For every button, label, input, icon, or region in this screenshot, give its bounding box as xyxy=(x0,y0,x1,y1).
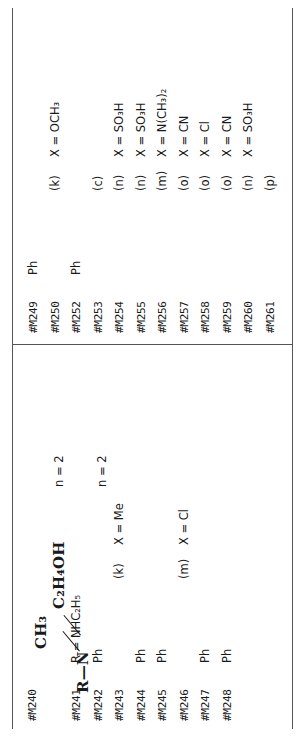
table-row: #M243(k)X = Me xyxy=(112,351,134,721)
entry-isomer: (o) xyxy=(220,157,234,191)
rotated-page-container: R—N CH₃ C₂H₄OH n = 2 n = 2 #M240#M241R =… xyxy=(0,0,303,737)
table-row: #M244Ph xyxy=(134,351,156,721)
entry-id: #M261 xyxy=(264,275,277,333)
entry-id: #M240 xyxy=(26,663,39,721)
entry-isomer: (o) xyxy=(198,157,212,191)
table-row: #M257(o)X = CN xyxy=(177,8,199,333)
entry-substituent: X = SO₃H xyxy=(241,8,255,157)
table-bottom-rule xyxy=(292,8,293,729)
entry-substituent: X = Cl xyxy=(177,351,191,545)
entry-id: #M243 xyxy=(113,663,126,721)
entry-id: #M249 xyxy=(27,275,40,333)
entry-isomer: (n) xyxy=(241,157,255,191)
table-row: #M258(o)X = Cl xyxy=(198,8,220,333)
entry-r-group: Ph xyxy=(220,579,234,663)
table-row: #M255(n)X = SO₃H xyxy=(134,8,156,333)
table-row: #M242Ph xyxy=(91,351,113,721)
right-entry-column: #M249Ph#M250(k)X = OCH₃#M252Ph#M253(c)#M… xyxy=(26,8,284,333)
entry-r-group: R = NHC₂H₅ xyxy=(69,579,83,663)
entry-isomer: (m) xyxy=(177,545,191,579)
entry-id: #M254 xyxy=(113,275,126,333)
table-row: #M260(n)X = SO₃H xyxy=(241,8,263,333)
entry-id: #M244 xyxy=(135,663,148,721)
entry-isomer: (n) xyxy=(134,157,148,191)
table-row: #M253(c) xyxy=(91,8,113,333)
entry-substituent: X = SO₃H xyxy=(134,8,148,157)
entry-isomer: (k) xyxy=(112,545,126,579)
entry-id: #M248 xyxy=(221,663,234,721)
entry-substituent: X = CN xyxy=(220,8,234,157)
entry-id: #M250 xyxy=(49,275,62,333)
entry-substituent: X = CN xyxy=(177,8,191,157)
table-row: #M254(n)X = SO₃H xyxy=(112,8,134,333)
entry-r-group: Ph xyxy=(69,191,83,275)
table-row: #M240 xyxy=(26,351,48,721)
entry-id: #M253 xyxy=(92,275,105,333)
entry-isomer: (p) xyxy=(263,157,277,191)
table-row: #M241R = NHC₂H₅ xyxy=(69,351,91,721)
entry-substituent: X = N(CH₃)₂ xyxy=(155,8,169,157)
entry-r-group: Ph xyxy=(198,579,212,663)
table-row: #M250(k)X = OCH₃ xyxy=(48,8,70,333)
entry-r-group: Ph xyxy=(134,579,148,663)
entry-isomer: (k) xyxy=(48,157,62,191)
column-divider-rule xyxy=(12,344,293,345)
entry-r-group: Ph xyxy=(155,579,169,663)
table-row: #M249Ph xyxy=(26,8,48,333)
reference-table-page: R—N CH₃ C₂H₄OH n = 2 n = 2 #M240#M241R =… xyxy=(0,0,303,737)
table-top-rule xyxy=(12,8,13,729)
entry-substituent: X = Me xyxy=(112,351,126,545)
entry-r-group: Ph xyxy=(91,579,105,663)
table-row: #M261(p) xyxy=(263,8,285,333)
entry-substituent: X = OCH₃ xyxy=(48,8,62,157)
entry-id: #M255 xyxy=(135,275,148,333)
entry-id: #M241 xyxy=(70,663,83,721)
entry-id: #M257 xyxy=(178,275,191,333)
table-row: #M248Ph xyxy=(220,351,242,721)
table-row: #M252Ph xyxy=(69,8,91,333)
entry-id: #M256 xyxy=(156,275,169,333)
entry-isomer: (n) xyxy=(112,157,126,191)
table-row: #M246(m)X = Cl xyxy=(177,351,199,721)
table-row: #M256(m)X = N(CH₃)₂ xyxy=(155,8,177,333)
entry-id: #M260 xyxy=(242,275,255,333)
table-row: #M245Ph xyxy=(155,351,177,721)
table-row: #M247Ph xyxy=(198,351,220,721)
entry-id: #M242 xyxy=(92,663,105,721)
entry-id: #M258 xyxy=(199,275,212,333)
entry-id: #M246 xyxy=(178,663,191,721)
entry-isomer: (o) xyxy=(177,157,191,191)
table-row xyxy=(48,351,70,721)
entry-id: #M247 xyxy=(199,663,212,721)
entry-r-group: Ph xyxy=(26,191,40,275)
entry-id: #M259 xyxy=(221,275,234,333)
entry-id: #M252 xyxy=(70,275,83,333)
entry-isomer: (c) xyxy=(91,157,105,191)
table-row: #M259(o)X = CN xyxy=(220,8,242,333)
entry-id: #M245 xyxy=(156,663,169,721)
entry-substituent: X = Cl xyxy=(198,8,212,157)
entry-isomer: (m) xyxy=(155,157,169,191)
left-entry-column: #M240#M241R = NHC₂H₅#M242Ph#M243(k)X = M… xyxy=(26,351,241,721)
entry-substituent: X = SO₃H xyxy=(112,8,126,157)
